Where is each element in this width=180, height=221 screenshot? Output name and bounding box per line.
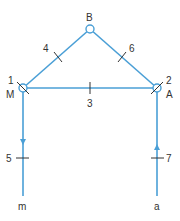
edge-B-A [90,29,157,88]
label-B: B [86,12,93,23]
label-edge-4: 4 [43,43,49,54]
label-M-number: 1 [8,75,14,86]
label-A-number: 2 [166,75,172,86]
label-terminal-a: a [154,201,160,212]
arrow-up-icon [154,144,160,150]
label-edge-5: 5 [6,153,12,164]
label-M: M [6,89,14,100]
label-A: A [166,89,173,100]
label-edge-6: 6 [129,43,135,54]
network-diagram: B 1 M 2 A 4 6 3 5 7 m a [0,0,180,221]
edge-M-B [23,29,90,88]
label-edge-3: 3 [87,98,93,109]
label-terminal-m: m [18,201,26,212]
arrow-down-icon [20,139,26,145]
node-B [86,25,94,33]
label-edge-7: 7 [166,153,172,164]
